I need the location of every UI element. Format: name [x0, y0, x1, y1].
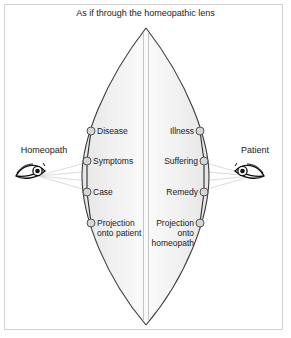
node-suffering[interactable] [200, 157, 208, 165]
node-case[interactable] [83, 188, 91, 196]
label-suffering: Suffering [128, 156, 198, 166]
figure-root: As if through the homeopathic lens Homeo… [0, 0, 291, 338]
node-projection-onto-homeopath[interactable] [196, 219, 204, 227]
node-disease[interactable] [87, 127, 95, 135]
label-case: Case [93, 187, 113, 197]
node-symptoms[interactable] [83, 157, 91, 165]
node-remedy[interactable] [200, 188, 208, 196]
label-projection-onto-homeopath: Projection onto homeopath [124, 218, 194, 248]
homeopath-eye-icon [14, 160, 48, 188]
figure-title: As if through the homeopathic lens [0, 8, 291, 18]
lens-left-half [82, 28, 146, 325]
node-illness[interactable] [196, 127, 204, 135]
node-projection-onto-patient[interactable] [87, 219, 95, 227]
homeopath-label: Homeopath [8, 145, 80, 155]
label-illness: Illness [124, 126, 194, 136]
patient-label: Patient [226, 145, 284, 155]
label-remedy: Remedy [128, 187, 198, 197]
patient-eye-icon [232, 160, 266, 188]
